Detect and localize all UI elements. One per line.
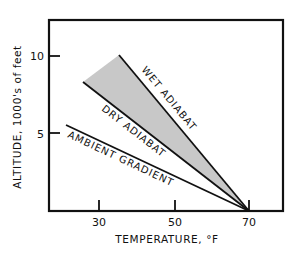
x-tick-label-70: 70 bbox=[242, 216, 256, 229]
shaded-region bbox=[83, 55, 249, 211]
x-tick-label-30: 30 bbox=[92, 216, 106, 229]
y-tick-label-5: 5 bbox=[37, 128, 44, 141]
y-axis-label: ALTITUDE, 1000's of feet bbox=[11, 45, 23, 189]
y-tick-label-10: 10 bbox=[30, 50, 44, 63]
x-axis-label: TEMPERATURE, °F bbox=[114, 233, 218, 245]
chart: 10 5 30 50 70 TEMPERATURE, °F ALTITUDE, … bbox=[0, 0, 293, 269]
x-tick-label-50: 50 bbox=[168, 216, 182, 229]
